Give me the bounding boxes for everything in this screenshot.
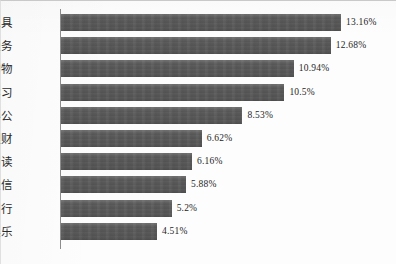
bar [61, 200, 172, 217]
bar-value-label: 10.94% [299, 60, 330, 77]
bar-value-label: 5.2% [177, 200, 198, 217]
bar-fill [61, 84, 284, 101]
plot-area: 实用工具13.16%生活服务12.68%时尚购物10.94%教育学习10.5%商… [1, 1, 396, 264]
bar [61, 84, 284, 101]
bar-fill [61, 107, 242, 124]
bar [61, 130, 202, 147]
bar-chart-figure: 实用工具13.16%生活服务12.68%时尚购物10.94%教育学习10.5%商… [0, 0, 396, 264]
bar [61, 37, 331, 54]
category-axis-line [60, 9, 61, 249]
bar-value-label: 5.88% [191, 176, 217, 193]
bar-value-label: 10.5% [289, 84, 315, 101]
category-label: 新闻阅读 [0, 153, 57, 171]
bar-value-label: 6.16% [197, 153, 223, 170]
bar-value-label: 6.62% [207, 130, 233, 147]
bar [61, 14, 341, 31]
category-label: 旅游出行 [0, 200, 57, 218]
bar [61, 107, 242, 124]
bar-value-label: 4.51% [162, 223, 188, 240]
category-label: 实用工具 [0, 14, 57, 32]
category-label: 社交通信 [0, 176, 57, 194]
bar-value-label: 8.53% [247, 107, 273, 124]
category-label: 教育学习 [0, 84, 57, 102]
bar-fill [61, 60, 294, 77]
bar-fill [61, 14, 341, 31]
bar [61, 176, 186, 193]
bar-value-label: 12.68% [336, 37, 367, 54]
bar [61, 153, 192, 170]
bar-fill [61, 200, 172, 217]
bar-fill [61, 130, 202, 147]
category-label: 时尚购物 [0, 60, 57, 78]
bar-fill [61, 176, 186, 193]
bar-fill [61, 223, 157, 240]
category-label: 生活服务 [0, 37, 57, 55]
bar-value-label: 13.16% [346, 14, 377, 31]
bar-fill [61, 37, 331, 54]
category-label: 商务办公 [0, 107, 57, 125]
bar [61, 60, 294, 77]
bar-fill [61, 153, 192, 170]
bar [61, 223, 157, 240]
category-label: 金融理财 [0, 130, 57, 148]
category-label: 游戏娱乐 [0, 223, 57, 241]
